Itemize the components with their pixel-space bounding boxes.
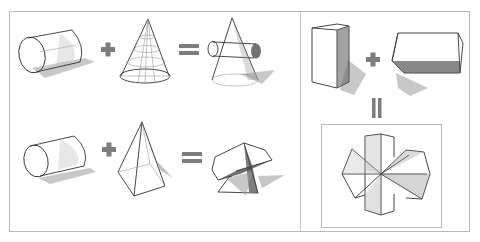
equals-icon [179,44,199,55]
sketch-artwork [0,0,480,242]
equals-icon [182,152,202,163]
plus-icon [366,53,380,67]
pyramid-sketch [118,122,173,196]
horizontal-box-sketch [392,33,463,96]
cylinder-cone-combined-sketch [208,18,275,86]
cross-prism-solid-sketch [342,134,430,215]
cone-sketch [120,19,170,83]
cylinder-sketch-2 [21,136,96,184]
vertical-box-sketch [312,24,366,95]
equals-icon-vertical [372,98,382,118]
cylinder-sketch-1 [16,30,95,78]
plus-icon [101,43,115,57]
plus-icon [102,143,116,157]
intersecting-prisms-sketch [212,143,285,196]
